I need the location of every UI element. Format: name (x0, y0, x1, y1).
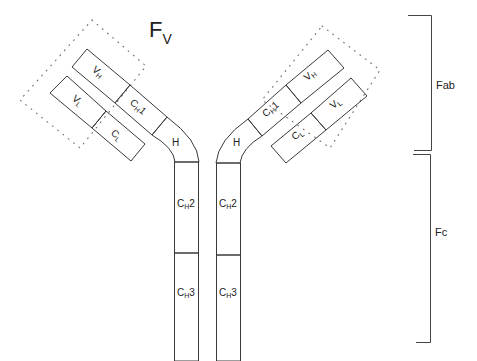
antibody-diagram: FV VH CH1 VL CL H VH CH1 VL CL H CH2 CH3… (0, 0, 477, 361)
left-ch2-label: CH2 (177, 198, 195, 210)
right-vh-label: VH (302, 67, 319, 84)
fc-bracket (413, 155, 431, 343)
right-ch1-label: CH1 (260, 99, 282, 120)
fv-label: FV (149, 17, 172, 47)
left-vh-label: VH (90, 64, 107, 81)
fc-label: Fc (435, 226, 448, 238)
fab-bracket (408, 16, 432, 151)
left-cl-label: CL (108, 127, 124, 143)
right-vl-label: VL (328, 95, 344, 111)
left-ch1-label: CH1 (127, 97, 149, 118)
left-vl-label: VL (70, 93, 86, 109)
right-arm (216, 26, 380, 361)
right-ch3-domain (217, 255, 241, 361)
fab-label: Fab (436, 79, 455, 91)
right-ch3-label: CH3 (219, 287, 237, 299)
left-arm (20, 20, 199, 361)
right-hinge-label: H (233, 137, 240, 148)
left-ch3-label: CH3 (177, 287, 195, 299)
left-hinge-label: H (172, 137, 179, 148)
left-ch3-domain (175, 253, 199, 361)
right-ch2-label: CH2 (219, 198, 237, 210)
